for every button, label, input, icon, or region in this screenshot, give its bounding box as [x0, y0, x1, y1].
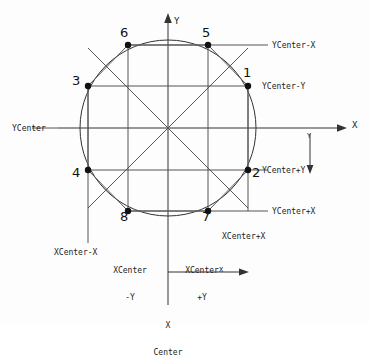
- label-xcenter: X Center: [146, 303, 190, 359]
- symmetry-point-2: [245, 167, 251, 173]
- label-xcenter-minus-x: XCenter-X: [54, 248, 97, 257]
- label-xcenter-line2: Center: [146, 348, 190, 357]
- point-number-8: 8: [120, 210, 128, 223]
- label-xcenter-minus-y-line1: XCenter: [108, 266, 152, 275]
- point-number-7: 7: [202, 210, 210, 223]
- label-ycenter-minus-x: YCenter-X: [272, 41, 315, 50]
- label-xcenter-plus-y-line1: XCenter: [180, 266, 224, 275]
- label-ycenter: YCenter: [12, 124, 46, 133]
- symmetry-point-6: [125, 42, 131, 48]
- symmetry-point-4: [85, 167, 91, 173]
- y-axis-arrowhead: [164, 13, 172, 23]
- point-number-1: 1: [243, 66, 251, 79]
- label-xcenter-plus-y-line2: +Y: [180, 293, 224, 302]
- symmetry-point-5: [205, 42, 211, 48]
- point-number-6: 6: [120, 26, 128, 39]
- point-number-4: 4: [72, 166, 80, 179]
- symmetry-point-1: [245, 83, 251, 89]
- label-ycenter-minus-y: YCenter-Y: [262, 82, 305, 91]
- y-axis-label: Y: [174, 17, 179, 26]
- y-down-axis-arrowhead: [307, 165, 314, 174]
- x-axis-label: X: [352, 121, 357, 130]
- y-down-axis-label: Y: [307, 133, 311, 140]
- label-ycenter-plus-y: YCenter+Y: [262, 166, 305, 175]
- point-number-5: 5: [202, 26, 210, 39]
- point-number-2: 2: [252, 166, 260, 179]
- symmetry-point-3: [85, 83, 91, 89]
- label-xcenter-plus-x: XCenter+X: [222, 232, 265, 241]
- label-xcenter-minus-y-line2: -Y: [108, 293, 152, 302]
- point-number-3: 3: [72, 74, 80, 87]
- x-bottom-axis-arrowhead: [239, 268, 249, 275]
- label-xcenter-line1: X: [146, 321, 190, 330]
- label-ycenter-plus-x: YCenter+X: [272, 207, 315, 216]
- x-axis-arrowhead: [337, 124, 347, 132]
